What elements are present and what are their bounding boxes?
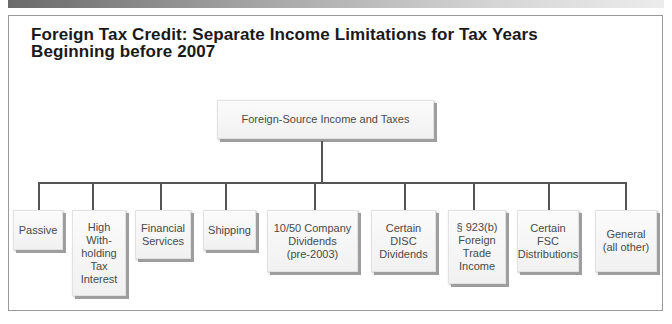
node-shipping: Shipping	[203, 210, 256, 250]
node-passive: Passive	[13, 210, 63, 250]
node-923b-foreign-trade-income: § 923(b) Foreign Trade Income	[448, 210, 506, 284]
child-connector	[92, 182, 94, 210]
node-general: General (all other)	[595, 210, 657, 272]
node-label: Certain DISC Dividends	[379, 222, 427, 261]
child-connector	[625, 182, 627, 210]
root-node: Foreign-Source Income and Taxes	[217, 100, 434, 139]
child-connector	[38, 182, 40, 210]
node-certain-disc-dividends: Certain DISC Dividends	[371, 210, 436, 272]
node-label: Certain FSC Distributions	[518, 222, 579, 261]
node-10-50-company-dividends: 10/50 Company Dividends (pre-2003)	[267, 210, 358, 272]
node-label: Shipping	[208, 224, 251, 237]
node-label: 10/50 Company Dividends (pre-2003)	[274, 222, 352, 261]
child-connector	[404, 182, 406, 210]
node-certain-fsc-distributions: Certain FSC Distributions	[517, 210, 579, 272]
root-node-label: Foreign-Source Income and Taxes	[242, 113, 410, 126]
node-label: Financial Services	[141, 222, 185, 248]
root-connector	[321, 141, 323, 183]
node-financial-services: Financial Services	[135, 210, 191, 259]
node-high-withholding-tax-interest: High With- holding Tax Interest	[72, 210, 126, 296]
child-connector	[225, 182, 227, 210]
node-label: Passive	[19, 224, 58, 237]
diagram-title: Foreign Tax Credit: Separate Income Limi…	[31, 26, 631, 60]
child-connector	[314, 182, 316, 210]
child-connector	[473, 182, 475, 210]
node-label: General (all other)	[603, 228, 649, 254]
node-label: § 923(b) Foreign Trade Income	[457, 221, 498, 273]
child-connector	[160, 182, 162, 210]
node-label: High With- holding Tax Interest	[81, 221, 118, 286]
horizontal-connector	[38, 182, 626, 184]
child-connector	[548, 182, 550, 210]
header-band	[8, 0, 664, 8]
